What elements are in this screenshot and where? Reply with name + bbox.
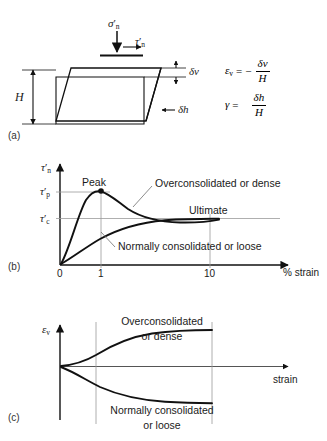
- panel-c-x-axis-label: strain: [273, 375, 297, 385]
- panel-b-y-axis-label: τ′n: [41, 162, 51, 174]
- panel-c-y-axis-sub: v: [46, 328, 50, 337]
- eq1-numerator: δv: [255, 58, 271, 71]
- panel-b-y-axis-sub: n: [47, 166, 51, 175]
- panel-b-ytick-peak-sub: p: [46, 190, 50, 199]
- equation-shear-strain: γ = δh H: [225, 92, 267, 118]
- panel-b-x-axis-label: % strain: [283, 268, 319, 278]
- shear-stress-sub: n: [141, 40, 145, 49]
- eq2-operator: =: [232, 99, 238, 111]
- panel-b-xtick-1: 1: [98, 269, 104, 279]
- eq2-lhs: γ: [225, 98, 229, 112]
- panel-b-curve-overconsolidated: [61, 191, 219, 264]
- panel-c-curve-normally-consolidated: [61, 367, 212, 403]
- panel-c-annotation-normally-consolidated-line1: Normally consolidated: [94, 405, 230, 416]
- sheared-box-outline: [56, 68, 161, 121]
- normal-stress-sub: n: [116, 22, 120, 31]
- sheared-right-edge: [146, 68, 161, 121]
- delta-h-label: δh: [178, 104, 189, 115]
- panel-a-graphic: [22, 31, 186, 124]
- height-label: H: [15, 91, 24, 103]
- eq1-lhs-sub: v: [229, 69, 233, 78]
- delta-v-label: δv: [189, 66, 199, 77]
- eq1-fraction: δv H: [255, 58, 271, 84]
- panel-b-xtick-10: 10: [204, 269, 215, 279]
- panel-c-y-axis-label: εv: [42, 324, 50, 336]
- eq1-operator: =: [236, 65, 242, 77]
- normal-stress-label: σ′n: [108, 18, 120, 30]
- panel-b-tag: (b): [8, 262, 20, 272]
- panel-b-ytick-critical: τ′c: [40, 213, 50, 225]
- panel-b-peak-marker: [98, 188, 104, 194]
- panel-c-annotation-overconsolidated-line2: or dense: [104, 331, 220, 342]
- panel-b-annotation-normally-consolidated: Normally consolidated or loose: [118, 241, 262, 252]
- equation-volumetric-strain: εv = − δv H: [225, 58, 271, 84]
- panel-b-leader-overconsolidated: [133, 186, 152, 207]
- eq2-numerator: δh: [251, 92, 268, 105]
- panel-b-annotation-peak: Peak: [82, 177, 106, 188]
- panel-b-annotation-ultimate: Ultimate: [189, 205, 228, 216]
- panel-b-xtick-0: 0: [57, 269, 63, 279]
- panel-c-tag: (c): [8, 413, 20, 423]
- eq1-denominator: H: [256, 71, 270, 85]
- panel-c-annotation-normally-consolidated-line2: or loose: [94, 420, 230, 431]
- eq1-lhs: εv: [225, 64, 233, 78]
- panel-b-ytick-critical-sub: c: [46, 217, 49, 226]
- panel-c-annotation-overconsolidated-line1: Overconsolidated: [104, 316, 220, 327]
- eq2-fraction: δh H: [251, 92, 268, 118]
- panel-b-ytick-peak: τ′p: [40, 186, 50, 198]
- original-box-outline: [56, 77, 144, 124]
- panel-b-annotation-overconsolidated: Overconsolidated or dense: [155, 178, 281, 189]
- figure-root: σ′n τ′n H δv δh (a) εv = − δv H γ = δh H…: [0, 0, 327, 441]
- eq1-sign: −: [245, 65, 251, 77]
- shear-stress-label: τ′n: [135, 36, 145, 48]
- eq2-denominator: H: [252, 105, 266, 119]
- panel-a-tag: (a): [8, 131, 20, 141]
